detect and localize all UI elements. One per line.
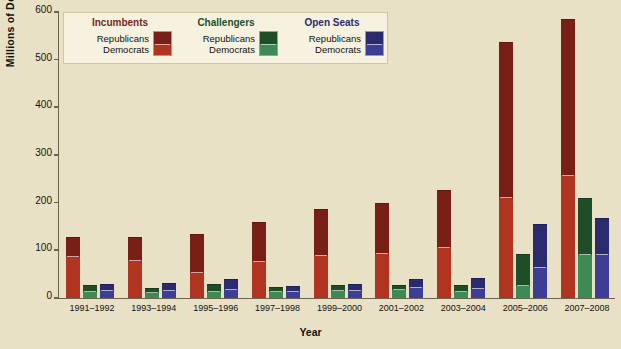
bar-segment-democrats <box>190 273 204 298</box>
bar-open-seats[interactable] <box>533 224 547 298</box>
legend-labels: RepublicansDemocrats <box>203 33 255 55</box>
bar-challengers[interactable] <box>454 285 468 298</box>
bar-segment-republicans <box>516 254 530 286</box>
bar-segment-democrats <box>314 256 328 298</box>
bar-segment-democrats <box>66 257 80 298</box>
legend-labels: RepublicansDemocrats <box>309 33 361 55</box>
bar-open-seats[interactable] <box>162 283 176 298</box>
bar-segment-republicans <box>595 218 609 255</box>
legend-swatch-divider <box>367 44 382 45</box>
chart-legend: IncumbentsRepublicansDemocratsChallenger… <box>63 12 388 64</box>
bar-segment-democrats <box>578 255 592 298</box>
bar-open-seats[interactable] <box>471 278 485 298</box>
bar-segment-divider <box>596 254 608 255</box>
bar-segment-divider <box>270 291 282 292</box>
bar-group: 2003–2004 <box>430 12 492 298</box>
bar-segment-divider <box>146 292 158 293</box>
bar-segment-divider <box>500 197 512 198</box>
bar-incumbents[interactable] <box>66 237 80 298</box>
legend-swatch-republicans <box>366 32 383 44</box>
bar-segment-democrats <box>286 292 300 298</box>
bar-segment-democrats <box>252 262 266 298</box>
legend-swatch-democrats <box>366 44 383 56</box>
bar-segment-democrats <box>348 291 362 298</box>
bar-open-seats[interactable] <box>286 286 300 298</box>
bar-incumbents[interactable] <box>561 19 575 298</box>
bar-segment-divider <box>438 247 450 248</box>
bar-incumbents[interactable] <box>437 190 451 298</box>
y-axis-tick: 500 <box>25 59 59 60</box>
bar-challengers[interactable] <box>516 254 530 298</box>
bar-incumbents[interactable] <box>375 203 389 298</box>
bar-segment-republicans <box>533 224 547 268</box>
legend-swatch-democrats <box>154 44 171 56</box>
bar-group: 2005–2006 <box>492 12 554 298</box>
bar-segment-democrats <box>561 176 575 299</box>
bar-challengers[interactable] <box>392 285 406 298</box>
bar-segment-democrats <box>331 291 345 298</box>
bar-segment-democrats <box>100 291 114 298</box>
bar-open-seats[interactable] <box>224 279 238 298</box>
y-axis-tick-label: 400 <box>35 99 52 110</box>
bar-segment-divider <box>67 256 79 257</box>
chart-container: Millions of Dollars 0100200300400500600 … <box>0 0 621 349</box>
bar-segment-democrats <box>516 286 530 298</box>
bar-segment-democrats <box>595 255 609 298</box>
x-axis-tick-label: 1993–1994 <box>131 303 176 313</box>
bar-open-seats[interactable] <box>409 279 423 298</box>
bar-segment-democrats <box>224 290 238 298</box>
bar-incumbents[interactable] <box>252 222 266 298</box>
legend-swatch-divider <box>155 44 170 45</box>
bar-segment-divider <box>101 290 113 291</box>
bar-segment-republicans <box>561 19 575 175</box>
bar-challengers[interactable] <box>269 287 283 298</box>
bar-segment-divider <box>225 289 237 290</box>
y-axis-tick: 300 <box>25 154 59 155</box>
legend-label: Republicans <box>97 33 149 44</box>
x-axis-tick-label: 1999–2000 <box>317 303 362 313</box>
bar-challengers[interactable] <box>83 285 97 298</box>
y-axis-tick: 400 <box>25 106 59 107</box>
bar-challengers[interactable] <box>331 285 345 298</box>
bar-segment-divider <box>129 260 141 261</box>
x-axis-tick-label: 2007–2008 <box>565 303 610 313</box>
bar-segment-divider <box>163 290 175 291</box>
y-axis-tick-label: 200 <box>35 195 52 206</box>
bar-segment-divider <box>534 267 546 268</box>
bar-segment-divider <box>349 290 361 291</box>
bar-incumbents[interactable] <box>128 237 142 298</box>
legend-swatch-republicans <box>154 32 171 44</box>
y-axis-tick: 100 <box>25 249 59 250</box>
bar-segment-democrats <box>145 293 159 298</box>
x-axis-tick-label: 1997–1998 <box>255 303 300 313</box>
bar-incumbents[interactable] <box>190 234 204 298</box>
bar-incumbents[interactable] <box>499 42 513 298</box>
legend-color-swatch <box>365 31 384 56</box>
bar-open-seats[interactable] <box>348 284 362 298</box>
bar-segment-democrats <box>375 254 389 298</box>
bar-segment-democrats <box>471 289 485 298</box>
legend-heading: Incumbents <box>68 17 172 28</box>
bar-segment-divider <box>472 288 484 289</box>
legend-label: Democrats <box>97 44 149 55</box>
legend-entry: RepublicansDemocrats <box>280 31 384 56</box>
bar-challengers[interactable] <box>578 198 592 298</box>
legend-color-swatch <box>259 31 278 56</box>
bar-open-seats[interactable] <box>595 218 609 298</box>
bar-segment-democrats <box>269 292 283 298</box>
legend-heading: Challengers <box>174 17 278 28</box>
bar-segment-divider <box>517 285 529 286</box>
bar-open-seats[interactable] <box>100 284 114 298</box>
y-axis-tick-label: 600 <box>35 4 52 15</box>
bar-segment-republicans <box>437 190 451 248</box>
legend-entry: RepublicansDemocrats <box>68 31 172 56</box>
bar-segment-democrats <box>437 248 451 298</box>
x-axis-label: Year <box>0 326 621 338</box>
bar-incumbents[interactable] <box>314 209 328 298</box>
legend-labels: RepublicansDemocrats <box>97 33 149 55</box>
bar-segment-democrats <box>83 292 97 298</box>
bar-challengers[interactable] <box>207 284 221 298</box>
bar-challengers[interactable] <box>145 288 159 298</box>
x-axis-tick-label: 1995–1996 <box>193 303 238 313</box>
bar-segment-divider <box>287 291 299 292</box>
